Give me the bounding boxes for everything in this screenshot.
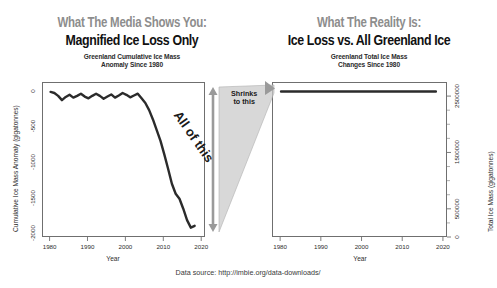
data-source-note: Data source: http://imbie.org/data-downl… — [175, 268, 320, 277]
right-chart-y-axis-title: Total Ice Mass (gigatonnes) — [487, 151, 494, 232]
left-panel-kicker: What The Media Shows You: — [39, 14, 226, 30]
left-panel-subtitle-line1: Greenland Cumulative Ice Mass — [18, 53, 246, 61]
left-panel-subtitle-line2: Anomaly Since 1980 — [18, 61, 246, 69]
left-panel-header: What The Media Shows You: Magnified Ice … — [18, 14, 246, 69]
shrinks-line-2: to this — [233, 97, 255, 106]
infographic-canvas: What The Media Shows You: Magnified Ice … — [0, 0, 497, 288]
left-chart-y-axis-title: Cumulative Ice Mass Anomaly (gigatonnes) — [12, 105, 19, 232]
right-chart-tick-marks — [272, 82, 462, 248]
right-panel-kicker: What The Reality Is: — [274, 14, 464, 30]
left-chart-x-axis-title: Year — [106, 255, 119, 262]
right-panel-headline: Ice Loss vs. All Greenland Ice — [276, 31, 462, 49]
right-chart-x-axis-title: Year — [353, 255, 366, 262]
left-panel-headline: Magnified Ice Loss Only — [41, 31, 223, 49]
right-panel-header: What The Reality Is: Ice Loss vs. All Gr… — [253, 14, 485, 69]
right-panel-subtitle-line1: Greenland Total Ice Mass — [253, 53, 485, 61]
left-chart-tick-marks — [30, 82, 215, 248]
shrinks-to-this-annotation-label: Shrinks to this — [231, 90, 257, 107]
right-panel-subtitle-line2: Changes Since 1980 — [253, 61, 485, 69]
